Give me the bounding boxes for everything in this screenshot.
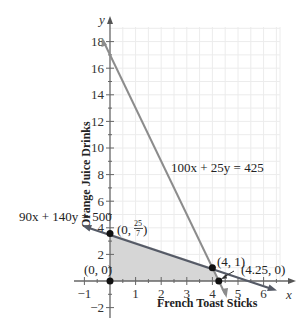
arrow-icon	[267, 285, 277, 292]
equation-label-2: 90x + 140y = 500	[19, 209, 112, 224]
x-axis-variable: x	[285, 287, 292, 302]
y-axis-variable: y	[97, 12, 105, 27]
y-tick-label: 16	[91, 61, 105, 76]
y-axis-arrow-icon	[107, 16, 113, 24]
point-label-prefix: (0,	[117, 222, 131, 237]
x-axis-title: French Toast Sticks	[157, 296, 258, 310]
x-tick-label: −1	[77, 286, 91, 301]
y-tick-label: 14	[91, 87, 105, 102]
fraction-numerator: 25	[134, 219, 142, 228]
y-tick-label: −2	[90, 300, 104, 315]
y-tick-label: 2	[98, 247, 105, 262]
y-tick-label: 8	[98, 167, 105, 182]
vertex-point-4-1	[209, 264, 216, 271]
point-label-4-25-0: (4.25, 0)	[241, 262, 285, 277]
vertex-point-4-25-0	[215, 278, 222, 285]
point-label-y-intercept: (0, 25 7 )	[117, 219, 147, 238]
point-label-suffix: )	[143, 222, 147, 237]
vertex-point-origin	[107, 278, 114, 285]
equation-label-1: 100x + 25y = 425	[171, 160, 264, 175]
vertex-point-y-intercept	[107, 230, 114, 237]
fraction-denominator: 7	[136, 229, 140, 238]
y-tick-label: 6	[98, 194, 105, 209]
chart-canvas: −1 1 2 3 4 5 6 −2 2 4 6 8 10 12 14 16 18…	[0, 0, 306, 329]
pointer-arrow-icon	[221, 274, 227, 279]
point-label-origin: (0, 0)	[84, 262, 112, 277]
x-axis-arrow-icon	[288, 278, 296, 284]
x-tick-label: 1	[132, 286, 139, 301]
